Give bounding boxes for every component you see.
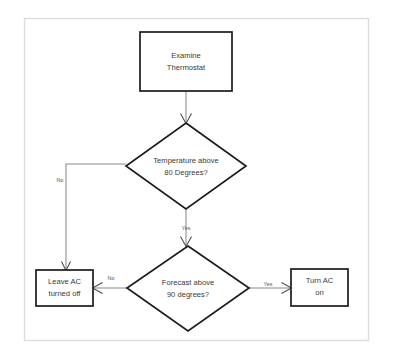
decision-diamond-forecast[interactable] [127,246,249,331]
node-examine-line2: Thermostat [167,63,206,72]
node-temperature-decision[interactable]: Temperature above 80 Degrees? [126,123,246,209]
edge-label-forecast-yes: Yes [264,281,273,287]
node-leave-off-line1: Leave AC [48,277,81,286]
edge-label-temp-yes: Yes [182,225,191,231]
connector-examine-to-temp [181,91,192,124]
node-examine-line1: Examine [171,51,201,60]
node-temperature-line1: Temperature above [153,156,218,165]
decision-diamond-temperature[interactable] [126,123,246,209]
flowchart-canvas: No Yes No Yes Examine Thermostat Tempera… [0,0,393,358]
node-temperature-line2: 80 Degrees? [164,168,207,177]
connector-temp-no [62,164,127,271]
connector-forecast-no [93,283,128,294]
flowchart-diagram: No Yes No Yes Examine Thermostat Tempera… [0,0,393,358]
process-box-examine[interactable] [140,32,232,91]
edge-label-forecast-no: No [108,275,115,281]
node-examine-thermostat[interactable]: Examine Thermostat [140,32,232,91]
process-box-leave-ac-off[interactable] [36,270,93,306]
node-leave-off-line2: turned off [49,289,82,298]
node-forecast-line2: 90 degrees? [167,290,209,299]
edge-label-temp-no: No [57,177,64,183]
node-turn-on-line1: Turn AC [306,276,334,285]
node-turn-on-line2: on [315,288,323,297]
node-turn-ac-on[interactable]: Turn AC on [291,269,348,306]
node-leave-ac-off[interactable]: Leave AC turned off [36,270,93,306]
node-forecast-decision[interactable]: Forecast above 90 degrees? [127,246,249,331]
node-forecast-line1: Forecast above [162,278,214,287]
